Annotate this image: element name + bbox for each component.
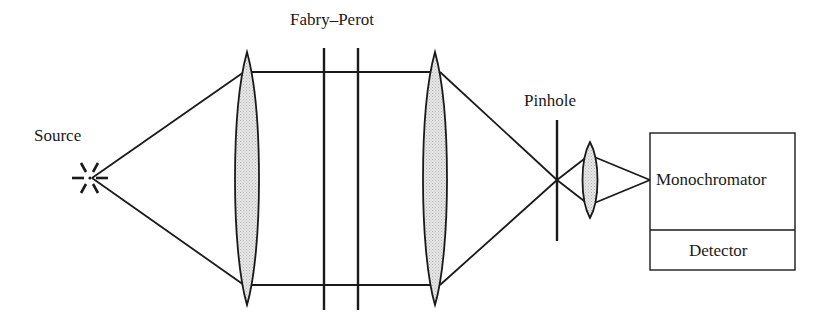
focusing-lens — [423, 52, 447, 305]
collimating-lens — [235, 52, 259, 305]
fabry-perot-etalon — [324, 48, 358, 310]
relay-lens — [583, 142, 598, 218]
pinhole-label: Pinhole — [524, 91, 576, 110]
fabry-perot-label: Fabry–Perot — [290, 10, 374, 29]
source-label: Source — [34, 126, 81, 145]
optical-diagram: Source Fabry–Perot Pinhole Monochromator… — [0, 0, 837, 323]
detector-label: Detector — [689, 241, 748, 260]
source-icon — [72, 163, 108, 193]
monochromator-label: Monochromator — [656, 170, 767, 189]
